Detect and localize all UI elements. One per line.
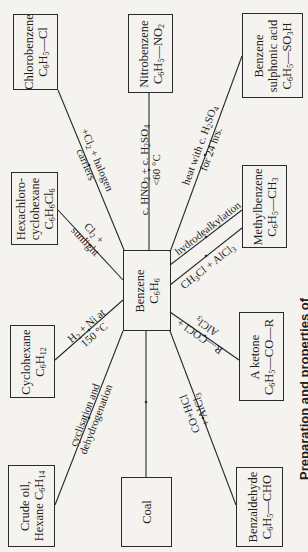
figure-caption: Preparation and properties of	[297, 298, 308, 480]
benzaldehyde-box: Benzaldehyde C6H5—CHO	[236, 467, 283, 547]
hexachloro-formula: C6H6Cl6	[42, 177, 56, 239]
benzene-name: Benzene	[133, 269, 147, 312]
methylbenzene-box: Methylbenzene C6H5—CH3	[242, 165, 287, 248]
coal-name: Coal	[140, 500, 154, 524]
ketone-box: A ketone C6H5—CO—R	[239, 312, 284, 401]
chlorobenzene-box: Chlorobenzene C6H5—Cl	[13, 14, 58, 90]
benzaldehyde-formula: C6H5—CHO	[260, 472, 274, 543]
crude-oil-box: Crude oil, Hexane C6H14	[8, 465, 55, 547]
sulphonic-acid-name-1: Benzene	[252, 19, 266, 92]
sulphonic-acid-formula: C6H5—SO3H	[280, 19, 294, 92]
benzene-box: Benzene C6H6	[123, 250, 171, 331]
nitrobenzene-formula: C6H5—NO2	[151, 20, 165, 87]
ketone-name: A ketone	[248, 318, 262, 394]
cyclohexane-name: Cyclohexane	[19, 329, 33, 394]
methylbenzene-formula: C6H5—CH3	[265, 168, 279, 245]
sulphonic-acid-name-2: sulphonic acid	[266, 19, 280, 92]
benzene-formula: C6H6	[147, 269, 161, 312]
coal-box: Coal	[121, 477, 172, 547]
benzene-sulphonic-acid-box: Benzene sulphonic acid C6H5—SO3H	[242, 13, 303, 98]
nitrobenzene-box: Nitrobenzene C6H5—NO2	[128, 14, 173, 93]
nitration-condition: c. HNO3 + c. H2SO4 <60 °C	[138, 110, 162, 230]
methylbenzene-name: Methylbenzene	[251, 168, 265, 245]
crude-oil-name-2: Hexane C6H14	[32, 471, 46, 542]
hexachloro-name-2: cyclohexane	[28, 177, 42, 239]
cyclohexane-formula: C6H12	[33, 329, 47, 394]
chlorobenzene-formula: C6H5—Cl	[36, 14, 50, 90]
cyclohexane-box: Cyclohexane C6H12	[10, 325, 55, 398]
hexachlorocyclohexane-box: Hexachloro- cyclohexane C6H6Cl6	[11, 172, 58, 245]
crude-oil-name-1: Crude oil,	[18, 471, 32, 542]
chlorobenzene-name: Chlorobenzene	[22, 14, 36, 90]
ketone-formula: C6H5—CO—R	[262, 318, 276, 394]
benzaldehyde-name: Benzaldehyde	[246, 472, 260, 543]
hexachloro-name-1: Hexachloro-	[14, 177, 28, 239]
nitrobenzene-name: Nitrobenzene	[137, 20, 151, 87]
